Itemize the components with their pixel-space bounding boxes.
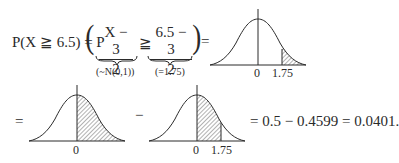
curve-zero-to-175: [149, 85, 245, 141]
underbrace-2: [148, 56, 192, 65]
curve-tail-area: [210, 9, 306, 65]
curve-right-half: [29, 85, 125, 141]
underbrace-1: [96, 56, 137, 65]
